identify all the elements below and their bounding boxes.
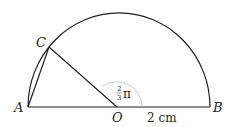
label-O: O (112, 110, 123, 125)
angle-denominator: 3 (117, 94, 121, 102)
chord-AC (28, 47, 49, 107)
angle-numerator: 2 (117, 85, 121, 93)
label-C: C (36, 35, 46, 50)
label-A: A (13, 100, 23, 115)
label-B: B (212, 100, 223, 115)
label-radius: 2 cm (147, 111, 177, 125)
semicircle-diagram: C A B O 2 cm 2 3 π (0, 0, 232, 127)
angle-pi: π (123, 87, 131, 101)
segment-OC (49, 47, 117, 107)
